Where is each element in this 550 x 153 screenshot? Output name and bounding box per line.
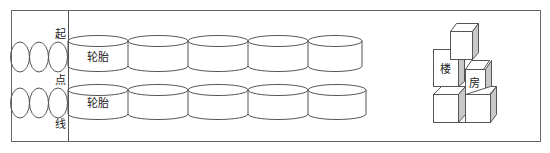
start-label-char-2: 点 bbox=[55, 74, 66, 87]
tire-race-diagram: 起 点 线 轮胎 bbox=[0, 0, 550, 153]
start-label-char-1: 起 bbox=[55, 28, 66, 41]
block-bottom-left bbox=[434, 87, 466, 123]
block-top bbox=[451, 24, 479, 60]
block-label-fang: 房 bbox=[469, 77, 480, 90]
block-label-lou: 楼 bbox=[440, 62, 451, 76]
start-label-char-3: 线 bbox=[55, 117, 66, 131]
tire-label: 轮胎 bbox=[87, 96, 109, 110]
tire-label: 轮胎 bbox=[87, 50, 109, 64]
